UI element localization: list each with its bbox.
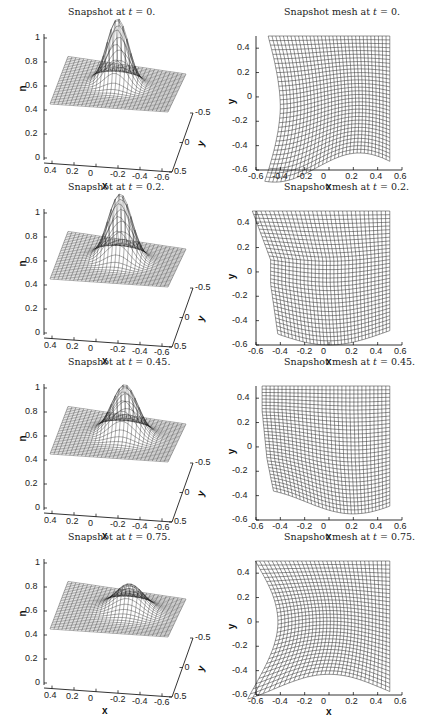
x-tick-label: -0.2 bbox=[297, 696, 313, 706]
x-tick-label: 0.4 bbox=[370, 696, 383, 706]
deformed-mesh bbox=[265, 36, 390, 182]
deformed-mesh bbox=[248, 561, 390, 699]
x-tick-label: 0 bbox=[88, 693, 93, 703]
y-tick-label: -0.5 bbox=[195, 282, 211, 292]
z-tick-label: 0.8 bbox=[25, 581, 38, 591]
surface-wireframe bbox=[50, 385, 186, 462]
x-tick-label: 0.2 bbox=[66, 691, 79, 701]
surface-plot-panel: Snapshot at t = 0.75.00.20.40.60.81n0.40… bbox=[0, 525, 212, 700]
y-tick-label: -0.6 bbox=[232, 689, 248, 699]
z-tick-label: 0.2 bbox=[25, 303, 38, 313]
y-axis-label: y bbox=[226, 99, 237, 105]
y-tick-label: 0 bbox=[185, 487, 190, 497]
z-tick-label: 0.4 bbox=[25, 454, 38, 464]
z-tick-label: 1 bbox=[35, 207, 40, 217]
surface-plot-panel: Snapshot at t = 0.45.00.20.40.60.81n0.40… bbox=[0, 350, 212, 525]
y-tick-label: 0.2 bbox=[237, 417, 250, 427]
x-tick-label: -0.4 bbox=[272, 696, 288, 706]
z-tick-label: 0.4 bbox=[25, 279, 38, 289]
mesh-plot-panel: Snapshot mesh at t = 0.-0.6-0.4-0.200.20… bbox=[212, 0, 424, 175]
z-axis-label: n bbox=[17, 610, 28, 616]
y-tick-label: 0 bbox=[247, 441, 252, 451]
z-tick-label: 0 bbox=[35, 502, 40, 512]
y-tick-label: 0 bbox=[247, 266, 252, 276]
y-tick-label: -0.6 bbox=[232, 339, 248, 349]
mesh-plot-panel: Snapshot mesh at t = 0.2.-0.6-0.4-0.200.… bbox=[212, 175, 424, 350]
z-tick-label: 0.2 bbox=[25, 653, 38, 663]
x-tick-label: 0.2 bbox=[345, 696, 358, 706]
z-tick-label: 0.4 bbox=[25, 629, 38, 639]
y-tick-label: 0 bbox=[247, 616, 252, 626]
y-tick-label: -0.6 bbox=[232, 514, 248, 524]
z-tick-label: 1 bbox=[35, 382, 40, 392]
y-tick-label: -0.5 bbox=[195, 107, 211, 117]
z-tick-label: 0.2 bbox=[25, 128, 38, 138]
x-tick-label: -0.6 bbox=[154, 697, 170, 707]
z-tick-label: 0.8 bbox=[25, 56, 38, 66]
surface-plot-panel: Snapshot at t = 0.2.00.20.40.60.81n0.40.… bbox=[0, 175, 212, 350]
y-axis-label: y bbox=[226, 274, 237, 280]
y-tick-label: -0.4 bbox=[232, 140, 248, 150]
y-tick-label: 0 bbox=[185, 312, 190, 322]
z-axis-label: n bbox=[17, 85, 28, 91]
y-axis-label: y bbox=[226, 624, 237, 630]
surface-plot-panel: Snapshot at t = 0.00.20.40.60.81n0.40.20… bbox=[0, 0, 212, 175]
z-tick-label: 0 bbox=[35, 677, 40, 687]
y-tick-label: 0.2 bbox=[237, 592, 250, 602]
z-tick-label: 1 bbox=[35, 557, 40, 567]
y-tick-label: 0.4 bbox=[237, 392, 250, 402]
z-axis-label: n bbox=[17, 260, 28, 266]
x-tick-label: -0.2 bbox=[110, 694, 126, 704]
y-tick-label: 0.4 bbox=[237, 217, 250, 227]
y-tick-label: -0.4 bbox=[232, 315, 248, 325]
x-tick-label: -0.4 bbox=[132, 696, 148, 706]
y-tick-label: -0.6 bbox=[232, 164, 248, 174]
z-tick-label: 0.8 bbox=[25, 406, 38, 416]
z-axis-label: n bbox=[17, 435, 28, 441]
surface-wireframe bbox=[50, 581, 186, 637]
y-tick-label: 0 bbox=[185, 662, 190, 672]
y-tick-label: 0.2 bbox=[237, 67, 250, 77]
y-tick-label: -0.2 bbox=[232, 465, 248, 475]
x-tick-label: 0.4 bbox=[44, 340, 57, 350]
y-tick-label: -0.4 bbox=[232, 665, 248, 675]
y-tick-label: 0.4 bbox=[237, 42, 250, 52]
y-tick-label: 0 bbox=[185, 137, 190, 147]
y-tick-label: -0.4 bbox=[232, 490, 248, 500]
z-tick-label: 0 bbox=[35, 152, 40, 162]
x-tick-label: -0.6 bbox=[248, 696, 264, 706]
z-tick-label: 0.4 bbox=[25, 104, 38, 114]
x-tick-label: 0.4 bbox=[44, 690, 57, 700]
y-tick-label: 0.2 bbox=[237, 242, 250, 252]
deformed-mesh bbox=[252, 211, 390, 345]
y-tick-label: -0.2 bbox=[232, 115, 248, 125]
surface-wireframe bbox=[50, 19, 186, 112]
surface-wireframe bbox=[50, 194, 186, 287]
x-tick-label: 0 bbox=[321, 696, 326, 706]
x-tick-label: 0.4 bbox=[44, 165, 57, 175]
x-tick-label: 0.6 bbox=[394, 696, 407, 706]
mesh-plot-panel: Snapshot mesh at t = 0.45.-0.6-0.4-0.200… bbox=[212, 350, 424, 525]
deformed-mesh bbox=[262, 386, 390, 514]
y-tick-label: -0.2 bbox=[232, 640, 248, 650]
y-tick-label: 0 bbox=[247, 91, 252, 101]
y-axis-label: y bbox=[226, 449, 237, 455]
x-tick-label: 0.4 bbox=[44, 515, 57, 525]
x-axis-label: x bbox=[102, 705, 108, 716]
x-axis-label: x bbox=[326, 706, 332, 717]
y-tick-label: -0.5 bbox=[195, 632, 211, 642]
z-tick-label: 1 bbox=[35, 32, 40, 42]
z-tick-label: 0.2 bbox=[25, 478, 38, 488]
y-tick-label: -0.5 bbox=[195, 457, 211, 467]
y-tick-label: 0.5 bbox=[174, 691, 187, 701]
y-tick-label: -0.2 bbox=[232, 290, 248, 300]
z-tick-label: 0.8 bbox=[25, 231, 38, 241]
y-tick-label: 0.4 bbox=[237, 567, 250, 577]
z-tick-label: 0 bbox=[35, 327, 40, 337]
mesh-plot-panel: Snapshot mesh at t = 0.75.-0.6-0.4-0.200… bbox=[212, 525, 424, 700]
